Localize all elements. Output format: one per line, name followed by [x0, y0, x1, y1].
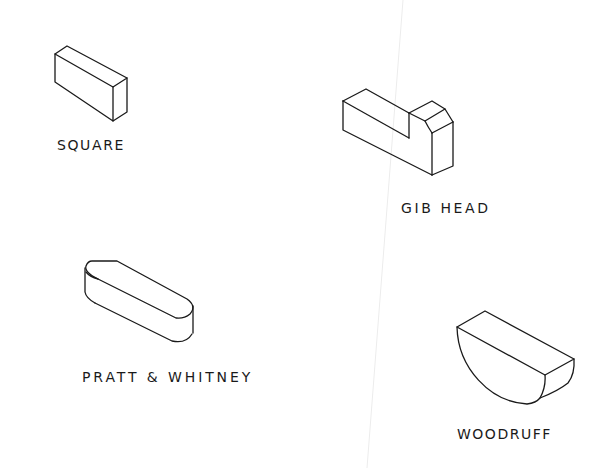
- gib-head-key-label: GIB HEAD: [401, 200, 491, 216]
- pratt-whitney-key-label: PRATT & WHITNEY: [82, 369, 253, 385]
- square-key-drawing: [55, 46, 127, 121]
- key-types-diagram: [0, 0, 610, 468]
- woodruff-key-label: WOODRUFF: [457, 426, 552, 442]
- pratt-whitney-key-drawing: [85, 261, 193, 342]
- woodruff-key-drawing: [457, 311, 574, 404]
- square-key-label: SQUARE: [57, 137, 125, 153]
- scan-artifact-line: [367, 0, 403, 468]
- gib-head-key-drawing: [343, 89, 453, 175]
